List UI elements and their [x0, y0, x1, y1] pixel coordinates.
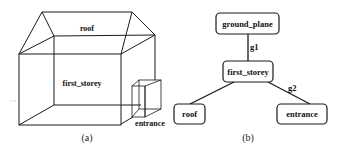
front-face: [19, 54, 121, 125]
node-label: entrance: [286, 109, 318, 119]
roof-label: roof: [80, 24, 94, 33]
entrance-front: [132, 86, 145, 117]
figure-canvas: roof first_storey entrance (a) g1 g2 gro…: [0, 0, 339, 153]
node-entrance: entrance: [277, 104, 327, 124]
roof-front-right-edge: [121, 12, 132, 54]
roof-back-left-edge: [42, 12, 54, 36]
floor-right-edge: [121, 117, 133, 124]
node-label: ground_plane: [222, 19, 273, 29]
edge-label-g2: g2: [288, 83, 297, 93]
node-label: first_storey: [227, 67, 269, 77]
entrance-edge: [145, 80, 161, 86]
entrance-box: [132, 80, 161, 117]
roof-outline: [19, 12, 155, 54]
first-storey-label: first_storey: [63, 79, 102, 88]
floor-left-edge: [19, 105, 54, 125]
graph: g1 g2 ground_plane first_storey roof ent…: [174, 13, 327, 124]
entrance-edge: [145, 109, 161, 117]
top-right-edge: [121, 35, 155, 54]
caption-b: (b): [242, 132, 254, 144]
caption-a: (a): [81, 132, 92, 144]
edge-roof: [190, 82, 234, 104]
node-label: roof: [182, 109, 197, 119]
node-roof: roof: [174, 104, 205, 124]
edge-label-g1: g1: [250, 42, 259, 52]
node-first-storey: first_storey: [223, 61, 273, 82]
node-ground-plane: ground_plane: [216, 13, 279, 34]
entrance-edge: [132, 109, 139, 117]
entrance-edge: [132, 80, 139, 86]
entrance-label: entrance: [135, 119, 165, 128]
top-back-edge: [54, 35, 155, 36]
